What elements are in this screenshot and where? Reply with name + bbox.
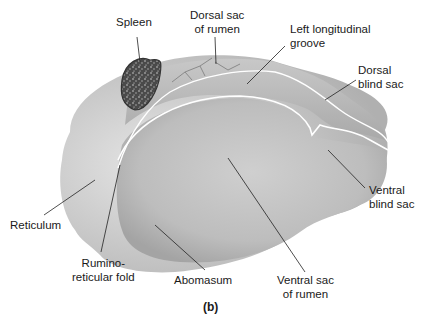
figure-caption: (b) bbox=[203, 300, 218, 314]
label-rumino-line1: Rumino- bbox=[72, 256, 135, 270]
label-reticulum: Reticulum bbox=[10, 218, 61, 232]
label-dorsal-blind-line2: blind sac bbox=[358, 77, 403, 91]
label-dorsal-sac-line2: of rumen bbox=[190, 22, 244, 36]
label-left-longitudinal-groove: Left longitudinal groove bbox=[290, 22, 371, 50]
label-ventral-sac-line1: Ventral sac bbox=[277, 273, 334, 287]
label-ventral-blind-line1: Ventral bbox=[369, 183, 414, 197]
label-ventral-sac-line2: of rumen bbox=[277, 287, 334, 301]
label-spleen: Spleen bbox=[116, 15, 152, 29]
label-dorsal-sac-line1: Dorsal sac bbox=[190, 8, 244, 22]
label-ventral-sac-of-rumen: Ventral sac of rumen bbox=[277, 273, 334, 301]
label-ventral-blind-line2: blind sac bbox=[369, 197, 414, 211]
label-dorsal-blind-line1: Dorsal bbox=[358, 63, 403, 77]
label-dorsal-sac-of-rumen: Dorsal sac of rumen bbox=[190, 8, 244, 36]
label-left-groove-line2: groove bbox=[290, 36, 371, 50]
label-left-groove-line1: Left longitudinal bbox=[290, 22, 371, 36]
label-ventral-blind-sac: Ventral blind sac bbox=[369, 183, 414, 211]
label-abomasum: Abomasum bbox=[174, 273, 232, 287]
label-dorsal-blind-sac: Dorsal blind sac bbox=[358, 63, 403, 91]
label-rumino-reticular-fold: Rumino- reticular fold bbox=[72, 256, 135, 284]
label-rumino-line2: reticular fold bbox=[72, 270, 135, 284]
